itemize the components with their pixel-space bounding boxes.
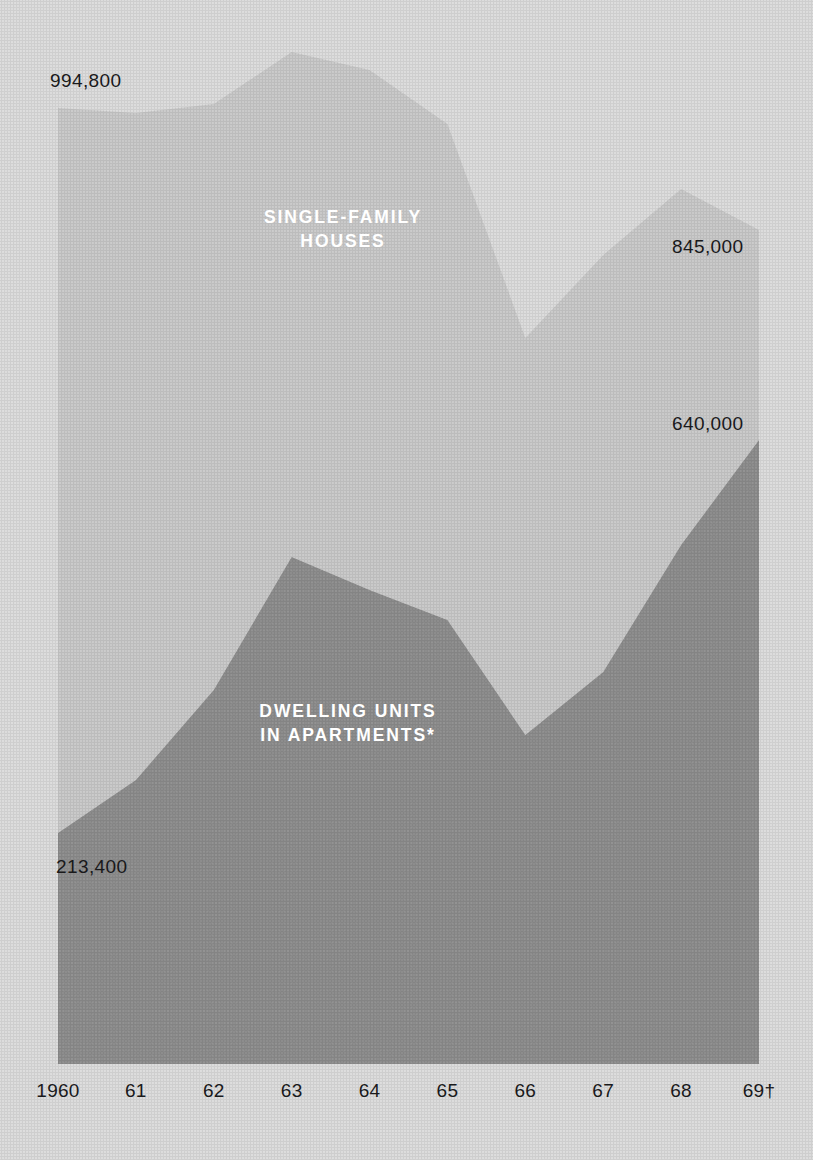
x-axis-tick-64: 64 (359, 1080, 381, 1102)
series-label-dwelling-units-in-apartments: DWELLING UNITS IN APARTMENTS* (218, 700, 478, 747)
x-axis-tick-67: 67 (592, 1080, 614, 1102)
x-axis-tick-62: 62 (203, 1080, 225, 1102)
value-label-bottom-left: 213,400 (56, 856, 127, 878)
x-axis-tick-66: 66 (514, 1080, 536, 1102)
value-label-right-lower: 640,000 (672, 413, 743, 435)
series-label-single-family-houses: SINGLE-FAMILY HOUSES (228, 206, 458, 253)
x-axis-tick-68: 68 (670, 1080, 692, 1102)
x-axis-tick-1960: 1960 (36, 1080, 79, 1102)
x-axis-tick-65: 65 (437, 1080, 459, 1102)
x-axis-tick-63: 63 (281, 1080, 303, 1102)
value-label-top-left: 994,800 (50, 70, 121, 92)
x-axis-tick-69: 69† (743, 1080, 776, 1102)
value-label-right-upper: 845,000 (672, 236, 743, 258)
area-chart-figure: 994,800 845,000 640,000 213,400 SINGLE-F… (0, 0, 813, 1160)
x-axis-tick-61: 61 (125, 1080, 147, 1102)
chart-plot-area (0, 0, 813, 1160)
